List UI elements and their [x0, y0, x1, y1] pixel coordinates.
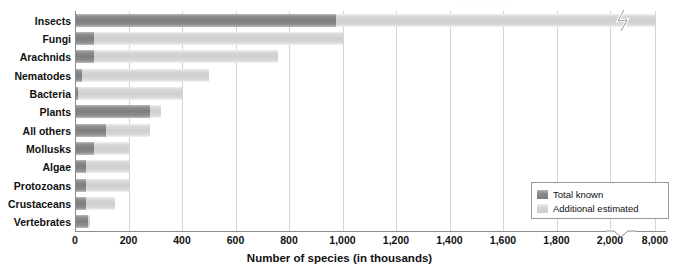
chart-legend: Total known Additional estimated — [531, 182, 669, 219]
legend-label-total-known: Total known — [553, 189, 603, 200]
gridline-1600 — [503, 11, 504, 231]
axis-break-zigzag-axis — [604, 225, 638, 239]
bar-known-protozoans — [75, 179, 86, 192]
x-axis-tick-labels: 02004006008001,0001,2001,4001,6001,8002,… — [0, 234, 679, 250]
bar-known-crustaceans — [75, 197, 86, 210]
x-tick-8000: 8,000 — [642, 234, 668, 246]
category-label-fungi: Fungi — [1, 33, 71, 46]
gridline-1200 — [396, 11, 397, 231]
bar-known-nematodes — [75, 69, 82, 82]
category-label-bacteria: Bacteria — [1, 88, 71, 101]
bar-known-insects — [75, 14, 336, 27]
x-tick-1600: 1,600 — [490, 234, 516, 246]
bar-known-plants — [75, 105, 150, 118]
legend-label-additional-estimated: Additional estimated — [553, 203, 639, 214]
category-label-protozoans: Protozoans — [1, 180, 71, 193]
category-label-plants: Plants — [1, 106, 71, 119]
x-tick-1400: 1,400 — [436, 234, 462, 246]
bar-known-algae — [75, 160, 86, 173]
legend-item-total-known: Total known — [537, 187, 663, 201]
category-label-arachnids: Arachnids — [1, 51, 71, 64]
x-tick-200: 200 — [120, 234, 138, 246]
x-axis-title: Number of species (in thousands) — [0, 252, 679, 264]
x-tick-800: 800 — [280, 234, 298, 246]
category-label-insects: Insects — [1, 15, 71, 28]
category-label-crustaceans: Crustaceans — [1, 198, 71, 211]
bar-estimated-fungi — [75, 32, 343, 45]
category-label-algae: Algae — [1, 161, 71, 174]
category-label-mollusks: Mollusks — [1, 143, 71, 156]
axis-break-zigzag-bar — [611, 10, 637, 32]
bar-known-all-others — [75, 124, 106, 137]
gridline-1400 — [450, 11, 451, 231]
legend-swatch-additional-estimated — [537, 204, 548, 213]
bar-estimated-bacteria — [75, 87, 182, 100]
category-axis-labels: InsectsFungiArachnidsNematodesBacteriaPl… — [0, 11, 71, 231]
legend-swatch-total-known — [537, 190, 548, 199]
x-tick-600: 600 — [227, 234, 245, 246]
gridline-1000 — [343, 11, 344, 231]
x-tick-1800: 1,800 — [543, 234, 569, 246]
bar-estimated-nematodes — [75, 69, 209, 82]
x-tick-0: 0 — [72, 234, 78, 246]
species-bar-chart: InsectsFungiArachnidsNematodesBacteriaPl… — [0, 0, 679, 271]
category-label-all-others: All others — [1, 125, 71, 138]
category-label-vertebrates: Vertebrates — [1, 216, 71, 229]
bar-known-vertebrates — [75, 215, 88, 228]
category-label-nematodes: Nematodes — [1, 70, 71, 83]
x-tick-1200: 1,200 — [383, 234, 409, 246]
x-tick-1000: 1,000 — [329, 234, 355, 246]
x-tick-400: 400 — [173, 234, 191, 246]
bar-estimated-arachnids — [75, 50, 278, 63]
bar-known-fungi — [75, 32, 94, 45]
x-axis-line — [75, 231, 666, 232]
bar-known-arachnids — [75, 50, 94, 63]
y-axis-line — [75, 11, 76, 232]
bar-known-mollusks — [75, 142, 94, 155]
legend-item-additional-estimated: Additional estimated — [537, 201, 663, 215]
